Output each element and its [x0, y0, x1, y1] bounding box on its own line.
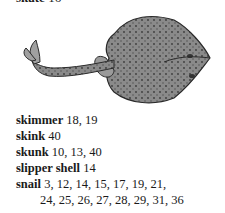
- index-entry: skunk 10, 13, 40: [16, 144, 184, 160]
- index-term: skunk: [16, 145, 49, 159]
- index-pages: 18, 19: [63, 113, 97, 127]
- clipped-index-entry: skate 16: [16, 0, 61, 5]
- index-term: skate: [16, 0, 45, 5]
- index-pages: 3, 12, 14, 15, 17, 19, 21,: [41, 177, 166, 191]
- index-entry: slipper shell 14: [16, 160, 184, 176]
- index-pages: 10, 13, 40: [49, 145, 102, 159]
- skate-body: [106, 17, 210, 103]
- index-entry: skink 40: [16, 128, 184, 144]
- index-pages: 16: [45, 0, 61, 5]
- index-pages: 14: [80, 161, 96, 175]
- skate-eye: [189, 74, 195, 78]
- index-list: skimmer 18, 19 skink 40 skunk 10, 13, 40…: [16, 112, 184, 208]
- skate-illustration: [14, 6, 214, 106]
- index-term: skink: [16, 129, 45, 143]
- index-entry: skimmer 18, 19: [16, 112, 184, 128]
- index-pages: 40: [45, 129, 61, 143]
- index-term: skimmer: [16, 113, 63, 127]
- index-term: snail: [16, 177, 41, 191]
- index-entry-continuation: 24, 25, 26, 27, 28, 29, 31, 36: [16, 192, 184, 208]
- index-entry: snail 3, 12, 14, 15, 17, 19, 21,: [16, 176, 184, 192]
- index-term: slipper shell: [16, 161, 80, 175]
